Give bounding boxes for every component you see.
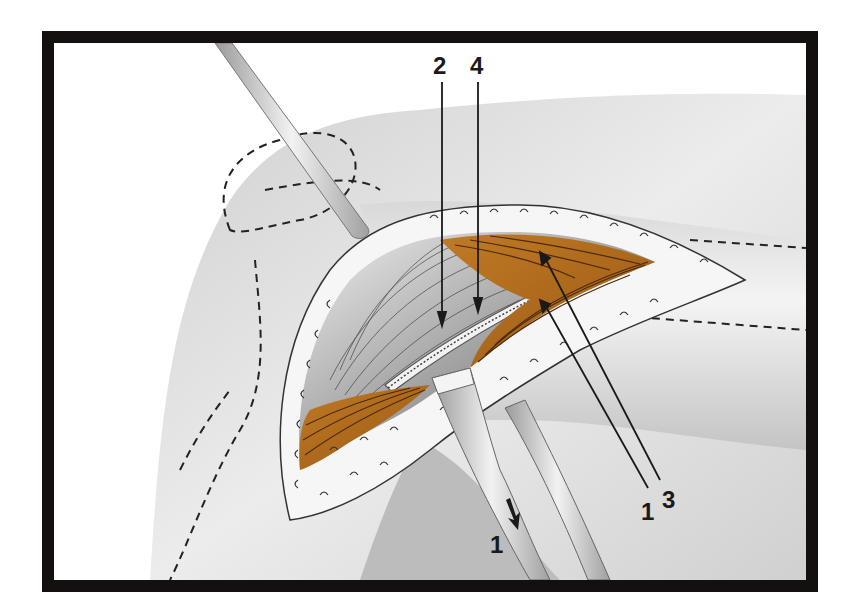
callout-label-3: 3	[662, 488, 675, 512]
shoulder-surgery-illustration	[0, 0, 847, 608]
callout-label-1-center: 1	[490, 533, 503, 557]
callout-label-2: 2	[433, 54, 446, 78]
callout-label-1-right: 1	[641, 500, 654, 524]
callout-label-4: 4	[470, 54, 483, 78]
